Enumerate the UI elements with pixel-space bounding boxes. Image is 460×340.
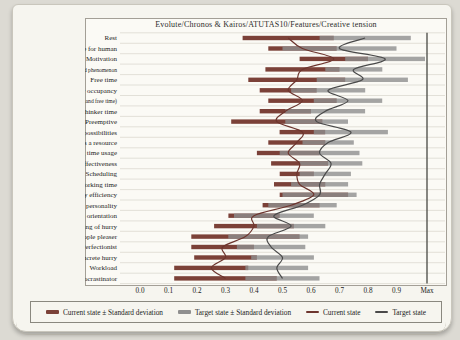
category-label: Workload — [90, 264, 118, 272]
x-tick-label: 0.4 — [250, 287, 259, 295]
target-state-bar — [320, 36, 411, 40]
legend-label: Current state — [323, 308, 361, 317]
category-label: Procrastinator — [85, 275, 118, 283]
category-label: Scheduling — [86, 170, 118, 178]
category-label: Free time — [90, 76, 117, 84]
x-tick-label: Max — [420, 287, 434, 295]
category-label: People pleaser — [85, 233, 118, 241]
category-label: Productivity efficiency — [85, 191, 117, 199]
category-label: Time as a resource — [85, 139, 117, 147]
category-label: Rest — [105, 34, 118, 42]
chart-canvas: RestTime's value for humanMotivationTime… — [85, 18, 447, 300]
category-label: Balance in life (between work and free t… — [85, 98, 117, 105]
category-label: Concrete hurry — [85, 254, 117, 262]
category-label: Abstract feeling of hurry — [85, 223, 117, 231]
legend-label: Current state ± Standard deviation — [63, 308, 163, 317]
legend-marker-icon — [46, 310, 59, 314]
category-label: Optimistic planning personality — [85, 202, 117, 210]
x-tick-label: 0.9 — [392, 287, 401, 295]
page-curl-decoration — [16, 322, 446, 335]
x-tick-label: 0.7 — [335, 287, 344, 295]
legend-item: Target state ± Standard deviation — [178, 308, 291, 317]
x-tick-label: 0.1 — [164, 287, 173, 295]
category-label: Time's value for human — [85, 45, 117, 53]
category-label: Working time — [85, 181, 117, 189]
x-tick-label: 0.6 — [307, 287, 316, 295]
legend-marker-icon — [178, 310, 191, 314]
x-tick-label: 0.3 — [221, 287, 230, 295]
legend-marker-icon — [306, 311, 319, 313]
category-label: Time as an undominated phenomenon — [85, 67, 117, 73]
legend-label: Target state ± Standard deviation — [195, 308, 291, 317]
scanned-figure-page: Evolute/Chronos & Kairos/ATUTAS10/Featur… — [0, 0, 460, 340]
legend-item: Current state ± Standard deviation — [46, 308, 163, 317]
x-tick-label: 0.8 — [364, 287, 373, 295]
category-label: Motivation — [86, 55, 118, 63]
category-label: Productivity occupancy — [85, 87, 117, 95]
category-label: Perfectionist — [85, 243, 117, 251]
category-label: Development possibilities — [85, 129, 117, 137]
chart-legend: Current state ± Standard deviationTarget… — [30, 301, 442, 323]
category-label: Thinker time — [85, 108, 117, 116]
category-label: Productivity effectiveness — [85, 160, 117, 168]
x-tick-label: 0.0 — [136, 287, 145, 295]
category-label: Preemptive — [85, 118, 117, 126]
legend-item: Current state — [306, 308, 361, 317]
legend-item: Target state — [375, 308, 426, 317]
legend-label: Target state — [392, 308, 426, 317]
category-label: Present orientation — [85, 212, 117, 220]
category-label: Recording time usage — [85, 149, 117, 157]
x-tick-label: 0.2 — [193, 287, 202, 295]
x-tick-label: 0.5 — [278, 287, 287, 295]
legend-marker-icon — [375, 311, 388, 313]
